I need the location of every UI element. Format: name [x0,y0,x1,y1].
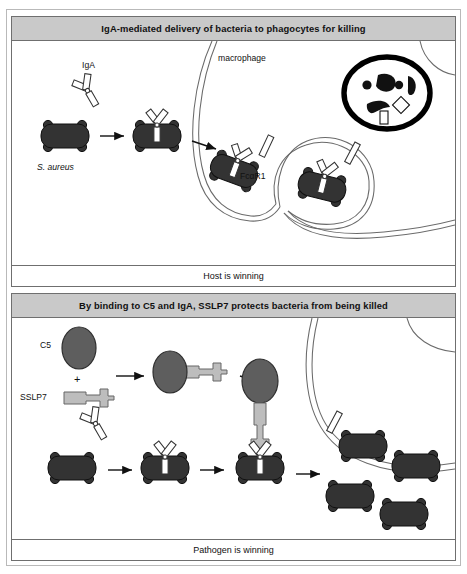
sslp7-molecule-free [64,389,114,407]
panel1-stage: macrophage IgA S. aureus FcαR1 [12,41,455,266]
bacterium-iga-bound-2 [141,441,189,484]
panel1-footer-bar: Host is winning [12,265,455,286]
panel2-footer-bar: Pathogen is winning [12,539,455,560]
panel2-header-bar: By binding to C5 and IgA, SSLP7 protects… [12,294,455,318]
label-plus: + [74,373,80,385]
label-iga: IgA [82,60,95,70]
label-sslp7: SSLP7 [20,392,47,402]
panel2-title: By binding to C5 and IgA, SSLP7 protects… [79,300,388,311]
lysosome [344,57,430,129]
fcar1-receptor-1 [259,135,274,157]
bacterium-docked-at-receptor [206,137,266,193]
iga-antibody-free [70,71,106,111]
label-c5: C5 [40,340,51,350]
bacterium-free [41,120,89,151]
iga-antibody-free-2 [78,404,114,444]
label-fcar1: FcαR1 [240,171,266,181]
panel1-title: IgA-mediated delivery of bacteria to pha… [101,23,365,34]
bacteria-surviving-cluster [326,430,440,529]
bacterium-engulfed [295,155,352,208]
panel2-caption: Pathogen is winning [193,545,274,555]
figure-canvas: IgA-mediated delivery of bacteria to pha… [0,0,467,574]
panel-pathogen-winning: By binding to C5 and IgA, SSLP7 protects… [11,293,456,561]
panel2-stage: C5 + SSLP7 [12,318,455,540]
panel1-graphics [12,41,455,266]
bacterium-free-2 [48,452,96,483]
arrow-2 [192,141,216,149]
panel1-caption: Host is winning [203,271,264,281]
panel1-header-bar: IgA-mediated delivery of bacteria to pha… [12,17,455,41]
label-s-aureus: S. aureus [37,162,74,172]
c5-sslp7-iga-bacterium-stack [242,359,278,453]
fcar1-receptor-3 [327,411,343,433]
panel2-graphics [12,318,455,540]
c5-sslp7-complex [153,351,227,393]
bacterium-iga-bound [133,109,181,152]
label-macrophage: macrophage [218,53,266,63]
panel-host-winning: IgA-mediated delivery of bacteria to pha… [11,16,456,287]
c5-molecule-free [62,327,96,369]
